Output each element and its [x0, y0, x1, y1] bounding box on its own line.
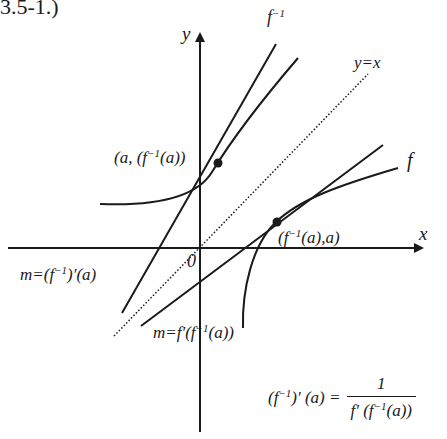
formula-lhs: (f−1)′ (a) = — [268, 387, 341, 408]
tangent-point-f — [273, 218, 282, 227]
identity-label: y=x — [354, 54, 381, 71]
f-tangent-line — [141, 145, 383, 326]
point-label-f: (f−1(a),a) — [278, 228, 340, 246]
inverse-slope-label: m=(f−1)′(a) — [20, 265, 96, 283]
point-label-f-inverse: (a, (f−1(a)) — [114, 148, 185, 166]
inverse-derivative-formula: (f−1)′ (a) = 1 f′ (f−1(a)) — [268, 374, 416, 421]
formula-numerator: 1 — [373, 374, 390, 396]
f-inverse-label: f−1 — [267, 8, 285, 26]
formula-fraction: 1 f′ (f−1(a)) — [347, 374, 417, 421]
formula-denominator: f′ (f−1(a)) — [347, 396, 417, 421]
f-slope-label: m=f′(f−1(a)) — [153, 323, 234, 341]
tangent-point-f-inverse — [214, 159, 223, 168]
f-label: f — [407, 150, 413, 170]
identity-line — [114, 74, 368, 336]
origin-label: 0 — [187, 252, 196, 270]
x-axis-label: x — [419, 224, 427, 243]
y-axis-label: y — [182, 24, 190, 43]
